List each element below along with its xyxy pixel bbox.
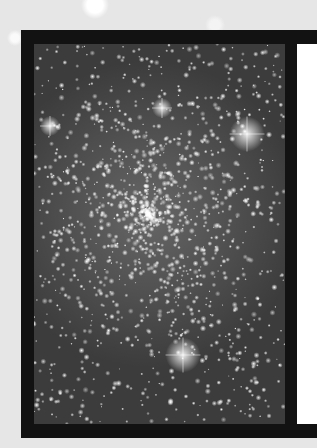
star-cluster-photo [34,44,285,424]
photo-frame [21,30,317,438]
star-field [34,44,285,424]
white-side-panel [297,44,317,424]
